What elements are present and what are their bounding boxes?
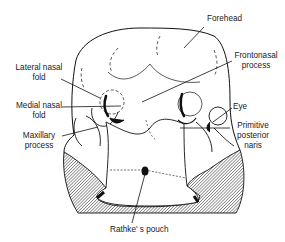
label-line: naris	[228, 141, 278, 151]
label-line: Maxillary	[14, 131, 64, 141]
label-line: process	[228, 61, 284, 71]
label-line: Lateral nasal	[10, 63, 68, 73]
label-line: fold	[10, 111, 68, 121]
label-lateral-nasal-fold: Lateral nasal fold	[10, 63, 68, 83]
label-rathkes-pouch: Rathke' s pouch	[110, 225, 168, 235]
label-line: fold	[10, 73, 68, 83]
label-line: Frontonasal	[228, 51, 284, 61]
label-line: process	[14, 141, 64, 151]
label-line: Primitive	[228, 121, 278, 131]
label-frontonasal-process: Frontonasal process	[228, 51, 284, 71]
label-line: posterior	[228, 131, 278, 141]
label-maxillary-process: Maxillary process	[14, 131, 64, 151]
label-line: Medial nasal	[10, 101, 68, 111]
label-primitive-posterior-naris: Primitive posterior naris	[228, 121, 278, 151]
label-eye: Eye	[233, 102, 247, 112]
label-medial-nasal-fold: Medial nasal fold	[10, 101, 68, 121]
stomodeum-roof	[97, 119, 199, 206]
label-forehead: Forehead	[207, 14, 242, 24]
